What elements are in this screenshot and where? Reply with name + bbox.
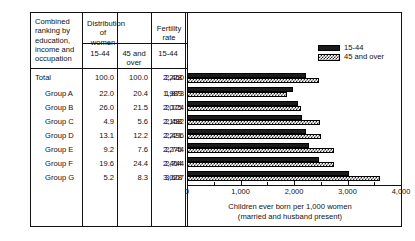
x-axis-major-tick	[401, 181, 402, 186]
figure-panel: Combined ranking by education, income an…	[30, 12, 402, 227]
row-label: Group A	[45, 89, 73, 98]
x-axis-major-tick	[241, 181, 242, 186]
row-dist-45-over: 100.0	[119, 73, 148, 82]
x-axis-minor-tick	[214, 182, 215, 186]
row-label: Group C	[45, 117, 74, 126]
x-axis-title-line2: (married and husband present)	[183, 212, 397, 222]
row-dist-15-44: 4.9	[85, 117, 114, 126]
row-label: Total	[35, 73, 51, 82]
row-fert-45-over: 2,496	[155, 131, 184, 140]
row-dist-15-44: 9.2	[85, 145, 114, 154]
x-axis-minor-tick	[321, 182, 322, 186]
row-dist-15-44: 5.2	[85, 173, 114, 182]
x-axis-tick-label: 4,000	[381, 188, 415, 196]
table-subheader-dist-45-over-label: 45 and over	[122, 49, 145, 67]
row-dist-45-over: 21.5	[119, 103, 148, 112]
table-group-header-distribution: Distribution of women	[87, 19, 119, 47]
row-dist-45-over: 24.4	[119, 159, 148, 168]
row-dist-15-44: 13.1	[85, 131, 114, 140]
bar-15-44	[187, 143, 309, 148]
table-col-divider-3	[151, 13, 152, 226]
row-label: Group B	[45, 103, 73, 112]
table-group-header-fertility-label: Fertility rate	[157, 24, 181, 42]
table-header-rule-bottom	[31, 68, 187, 69]
table-subheader-dist-15-44: 15-44	[85, 49, 115, 58]
row-dist-45-over: 7.6	[119, 145, 148, 154]
row-label: Group E	[45, 145, 73, 154]
row-fert-45-over: 2,460	[155, 73, 184, 82]
bar-15-44	[187, 87, 293, 92]
row-dist-15-44: 22.0	[85, 89, 114, 98]
row-label: Group F	[45, 159, 73, 168]
row-dist-45-over: 5.6	[119, 117, 148, 126]
bar-15-44	[187, 129, 306, 134]
bar-15-44	[187, 101, 298, 106]
bar-15-44	[187, 157, 319, 162]
bar-45-over	[187, 134, 321, 139]
x-axis-tick-label: 0	[167, 188, 207, 196]
row-fert-45-over: 2,744	[155, 145, 184, 154]
x-axis-tick-label: 3,000	[328, 188, 368, 196]
bar-45-over	[187, 92, 287, 97]
x-axis-title-line1: Children ever born per 1,000 women	[183, 202, 397, 212]
x-axis-minor-tick	[374, 182, 375, 186]
x-axis-major-tick	[187, 181, 188, 186]
row-fert-45-over: 2,744	[155, 159, 184, 168]
row-dist-45-over: 12.2	[119, 131, 148, 140]
row-fert-45-over: 2,482	[155, 117, 184, 126]
table-subheader-fert-15-44: 15-44	[152, 49, 184, 58]
bar-45-over	[187, 162, 334, 167]
row-fert-45-over: 2,124	[155, 103, 184, 112]
bar-45-over	[187, 78, 319, 83]
table-stub-header: Combined ranking by education, income an…	[35, 17, 87, 63]
bar-45-over	[187, 106, 301, 111]
row-label: Group D	[45, 131, 74, 140]
row-dist-45-over: 8.3	[119, 173, 148, 182]
bar-15-44	[187, 115, 302, 120]
row-dist-15-44: 26.0	[85, 103, 114, 112]
bar-chart: 15-44 45 and over 01,0002,0003,0004,000 …	[187, 13, 401, 226]
row-dist-15-44: 100.0	[85, 73, 114, 82]
bar-45-over	[187, 120, 320, 125]
bar-45-over	[187, 148, 334, 153]
x-axis-major-tick	[348, 181, 349, 186]
x-axis-tick-label: 1,000	[221, 188, 261, 196]
row-dist-15-44: 19.6	[85, 159, 114, 168]
row-fert-45-over: 1,873	[155, 89, 184, 98]
bar-15-44	[187, 73, 306, 78]
table-group-header-fertility: Fertility rate	[153, 24, 185, 43]
row-fert-45-over: 3,607	[155, 173, 184, 182]
x-axis-tick-label: 2,000	[274, 188, 314, 196]
x-axis-minor-tick	[267, 182, 268, 186]
row-label: Group G	[45, 173, 74, 182]
table-subheader-dist-45-over: 45 and over	[119, 49, 149, 68]
bar-45-over	[187, 176, 380, 181]
row-dist-45-over: 20.4	[119, 89, 148, 98]
x-axis-major-tick	[294, 181, 295, 186]
bar-15-44	[187, 171, 349, 176]
